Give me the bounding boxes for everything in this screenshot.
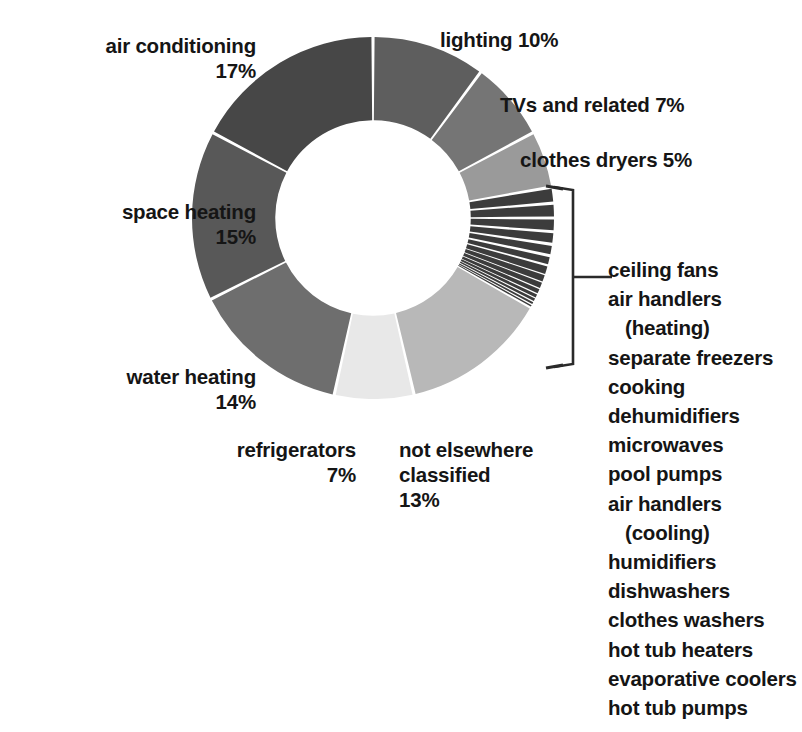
chart-canvas: lighting 10%TVs and related 7%clothes dr… [0, 0, 802, 732]
legend-item: clothes washers [608, 605, 802, 634]
slice-label-water-heating: water heating 14% [6, 364, 256, 414]
legend-item: dishwashers [608, 576, 802, 605]
slice-label-tvs-and-related: TVs and related 7% [500, 92, 780, 117]
legend-item: separate freezers [608, 343, 802, 372]
slice-label-space-heating: space heating 15% [6, 199, 256, 249]
legend-item: humidifiers [608, 547, 802, 576]
slice-label-lighting: lighting 10% [440, 27, 680, 52]
legend-item: (heating) [608, 313, 802, 342]
legend-item: evaporative coolers [608, 664, 802, 693]
slice-label-air-conditioning: air conditioning 17% [36, 33, 256, 83]
legend-item: air handlers [608, 489, 802, 518]
legend-item: dehumidifiers [608, 401, 802, 430]
legend-item: hot tub heaters [608, 635, 802, 664]
slice-label-not-elsewhere-classified: not elsewhere classified 13% [399, 437, 589, 512]
legend-item: hot tub pumps [608, 693, 802, 722]
donut-slice: not elsewhere classified 13% [396, 267, 530, 394]
legend-item: microwaves [608, 430, 802, 459]
small-slices-legend-list: ceiling fansair handlers(heating)separat… [608, 255, 802, 722]
legend-item: air handlers [608, 284, 802, 313]
legend-item: cooking [608, 372, 802, 401]
legend-item: ceiling fans [608, 255, 802, 284]
slice-label-refrigerators: refrigerators 7% [146, 437, 356, 487]
legend-item: pool pumps [608, 459, 802, 488]
legend-item: (cooling) [608, 518, 802, 547]
slice-label-clothes-dryers: clothes dryers 5% [520, 147, 780, 172]
